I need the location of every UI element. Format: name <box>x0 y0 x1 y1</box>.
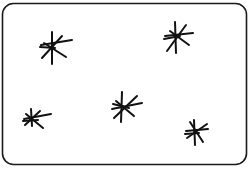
card-border <box>3 4 247 165</box>
asterisk-center <box>193 129 197 133</box>
asterisk-spoke <box>185 133 199 134</box>
asterisk-center <box>121 105 125 109</box>
asterisk-center <box>50 45 54 49</box>
asterisk-counting-card <box>0 0 249 180</box>
card-drawing <box>0 0 249 180</box>
asterisk-center <box>174 35 178 39</box>
asterisk-center <box>29 117 33 121</box>
